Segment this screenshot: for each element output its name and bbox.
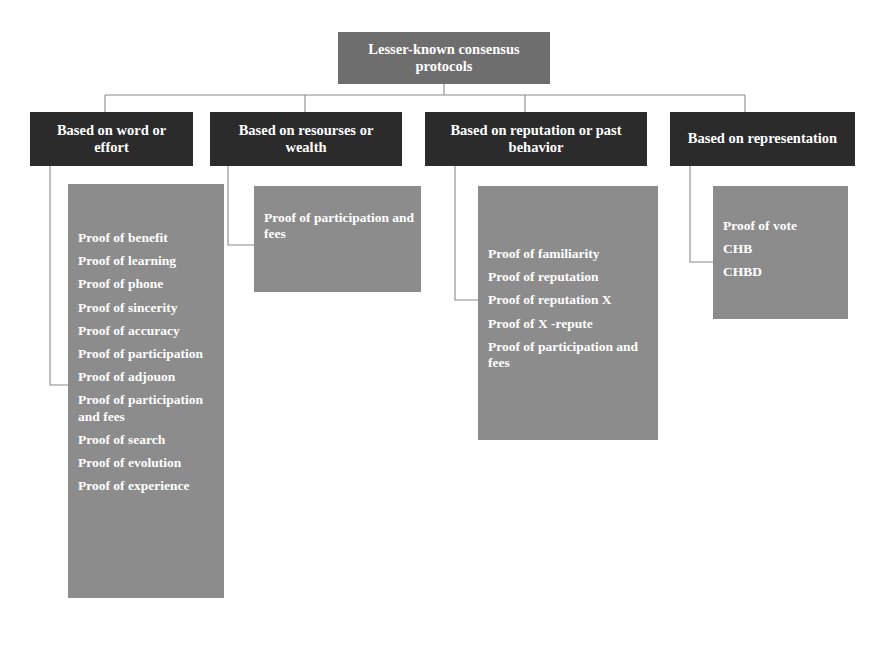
list-item: Proof of reputation X [488, 292, 652, 308]
panel-reputation-or-past-behavior: Proof of familiarity Proof of reputation… [478, 186, 658, 440]
list-item: Proof of participation and fees [78, 392, 218, 424]
list-item: CHB [723, 241, 842, 257]
category-header-label: Based on representation [688, 130, 837, 147]
list-item: Proof of benefit [78, 230, 218, 246]
list-item: Proof of experience [78, 478, 218, 494]
panel-representation: Proof of vote CHB CHBD [713, 186, 848, 319]
list-item: Proof of sincerity [78, 300, 218, 316]
list-item: Proof of vote [723, 218, 842, 234]
list-item: Proof of evolution [78, 455, 218, 471]
elbow-branch-3 [455, 166, 478, 300]
panel-word-or-effort: Proof of benefit Proof of learning Proof… [68, 184, 224, 598]
category-header-label: Based on reputation or past behavior [433, 122, 639, 156]
elbow-branch-2 [228, 166, 254, 245]
diagram-canvas: Lesser-known consensus protocols Based o… [0, 0, 884, 649]
list-item: Proof of participation [78, 346, 218, 362]
list-item: Proof of phone [78, 276, 218, 292]
list-item: CHBD [723, 264, 842, 280]
list-item: Proof of participation and fees [488, 339, 652, 371]
elbow-branch-4 [690, 166, 713, 262]
root-node-label: Lesser-known consensus protocols [346, 41, 542, 75]
category-header-word-or-effort: Based on word or effort [30, 112, 193, 166]
list-item: Proof of familiarity [488, 246, 652, 262]
list-item: Proof of X -repute [488, 316, 652, 332]
category-header-reputation-or-past-behavior: Based on reputation or past behavior [425, 112, 647, 166]
list-item: Proof of learning [78, 253, 218, 269]
category-header-label: Based on word or effort [38, 122, 185, 156]
list-item: Proof of participation and fees [264, 210, 415, 242]
category-header-representation: Based on representation [670, 112, 855, 166]
root-node: Lesser-known consensus protocols [338, 32, 550, 84]
list-item: Proof of search [78, 432, 218, 448]
list-item: Proof of adjouon [78, 369, 218, 385]
category-header-resources-or-wealth: Based on resourses or wealth [210, 112, 402, 166]
panel-resources-or-wealth: Proof of participation and fees [254, 186, 421, 292]
elbow-branch-1 [50, 166, 68, 385]
category-header-label: Based on resourses or wealth [218, 122, 394, 156]
list-item: Proof of reputation [488, 269, 652, 285]
list-item: Proof of accuracy [78, 323, 218, 339]
